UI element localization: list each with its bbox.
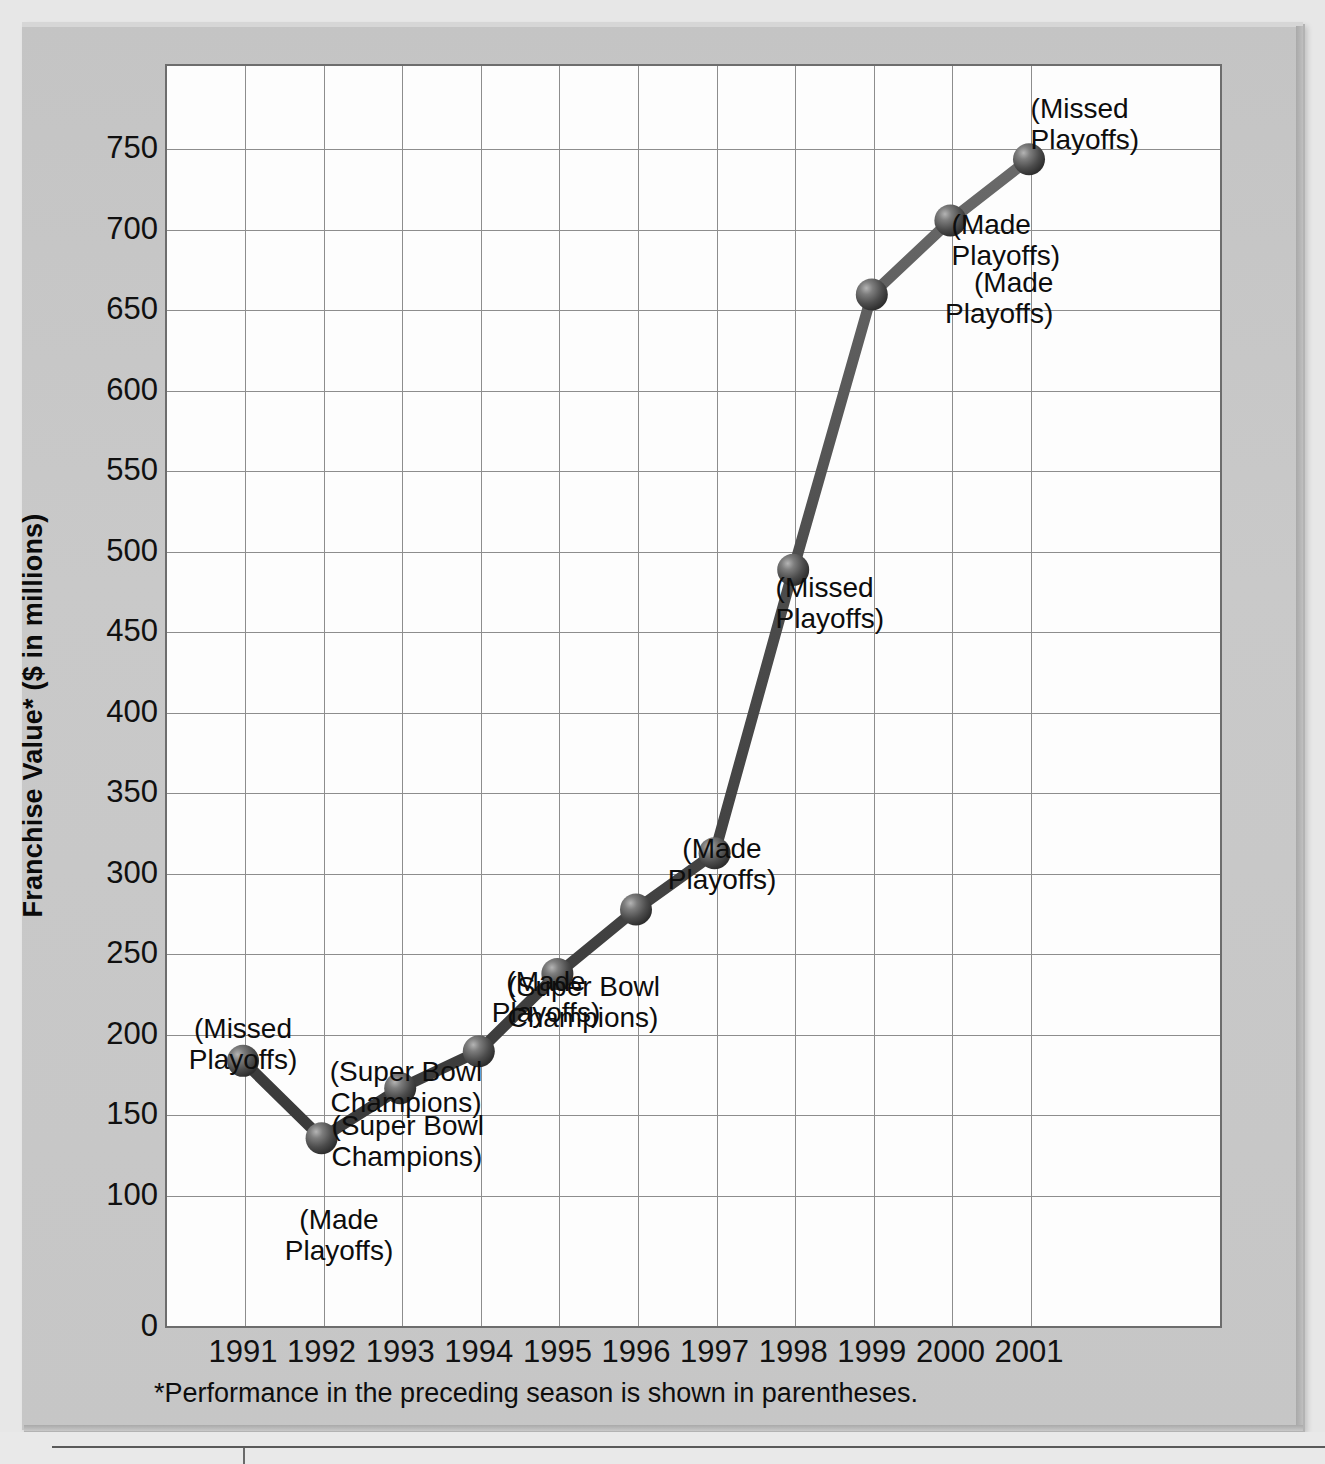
gridline-vertical [245, 66, 246, 1326]
data-point-annotation: (Made Playoffs) [285, 1204, 393, 1267]
y-axis-tick-label: 100 [8, 1177, 158, 1213]
chart-footnote: *Performance in the preceding season is … [154, 1378, 918, 1409]
y-axis-tick-label: 650 [8, 291, 158, 327]
x-axis-tick-label: 1995 [523, 1334, 592, 1370]
data-point-annotation: (Super Bowl Champions) [331, 1110, 484, 1173]
x-axis-tick-label: 1993 [366, 1334, 435, 1370]
gridline-horizontal [167, 552, 1220, 553]
data-point-annotation: (Super Bowl Champions) [507, 971, 660, 1034]
gridline-horizontal [167, 230, 1220, 231]
gridline-vertical [324, 66, 325, 1326]
x-axis-tick-label: 1997 [680, 1334, 749, 1370]
data-point-annotation: (Made Playoffs) [668, 833, 776, 896]
gridline-horizontal [167, 310, 1220, 311]
gridline-horizontal [167, 632, 1220, 633]
x-axis-tick-label: 1994 [444, 1334, 513, 1370]
data-point-annotation: (Missed Playoffs) [776, 572, 884, 635]
x-axis-tick-label: 2001 [995, 1334, 1064, 1370]
gridline-vertical [874, 66, 875, 1326]
gridline-horizontal [167, 793, 1220, 794]
x-axis-tick-label: 1999 [837, 1334, 906, 1370]
gridline-horizontal [167, 713, 1220, 714]
y-axis-tick-label: 750 [8, 130, 158, 166]
footer-vertical-rule [243, 1448, 245, 1464]
panel-shadow-bottom [24, 1425, 1303, 1431]
y-axis-tick-label: 0 [8, 1308, 158, 1344]
panel-highlight [22, 22, 1303, 27]
y-axis-title: Franchise Value* ($ in millions) [18, 336, 49, 1096]
gridline-vertical [559, 66, 560, 1326]
gridline-horizontal [167, 471, 1220, 472]
gridline-horizontal [167, 954, 1220, 955]
y-axis-tick-label: 700 [8, 211, 158, 247]
gridline-vertical [795, 66, 796, 1326]
chart-page: 0100150200250300350400450500550600650700… [0, 0, 1325, 1464]
gridline-vertical [717, 66, 718, 1326]
x-axis-tick-label: 1992 [287, 1334, 356, 1370]
x-axis-tick-label: 2000 [916, 1334, 985, 1370]
data-point-annotation: (Made Playoffs) [945, 267, 1053, 330]
gridline-horizontal [167, 391, 1220, 392]
footer-strip [0, 1432, 1325, 1464]
gridline-horizontal [167, 1196, 1220, 1197]
gridline-horizontal [167, 1115, 1220, 1116]
x-axis-tick-label: 1998 [759, 1334, 828, 1370]
x-axis-tick-label: 1996 [602, 1334, 671, 1370]
y-axis-tick-label: 150 [8, 1096, 158, 1132]
data-point-annotation: (Missed Playoffs) [1031, 93, 1139, 156]
gridline-vertical [638, 66, 639, 1326]
gridline-horizontal [167, 1035, 1220, 1036]
x-axis-tick-label: 1991 [209, 1334, 278, 1370]
plot-area [165, 64, 1222, 1328]
panel-shadow-right [1296, 26, 1303, 1430]
data-point-annotation: (Made Playoffs) [952, 209, 1060, 272]
data-point-annotation: (Missed Playoffs) [189, 1013, 297, 1076]
